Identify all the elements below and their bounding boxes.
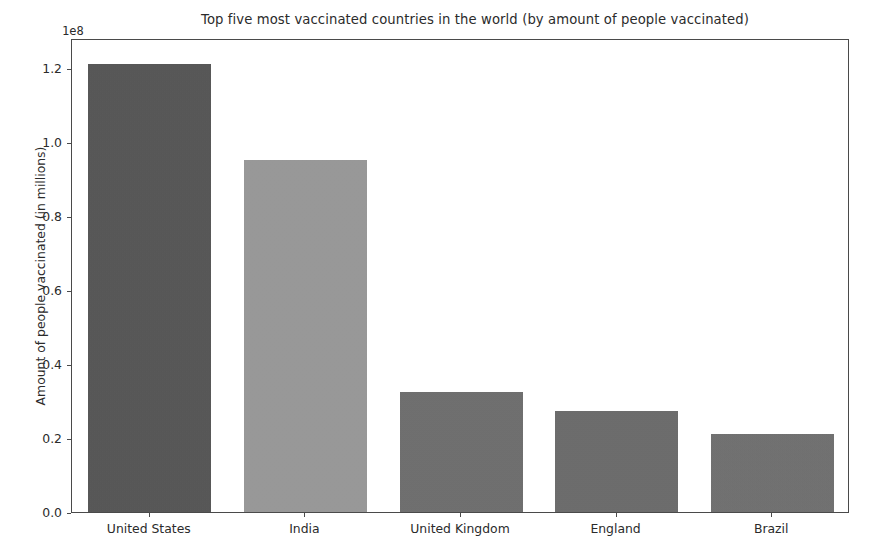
x-tick-label-united-states: United States	[107, 521, 191, 536]
x-tick-label-united-kingdom: United Kingdom	[410, 521, 509, 536]
x-tick-mark	[616, 513, 617, 517]
x-tick-mark	[771, 513, 772, 517]
x-tick-label-india: India	[289, 521, 319, 536]
x-tick-label-england: England	[590, 521, 640, 536]
x-tick-mark	[460, 513, 461, 517]
x-tick-mark	[149, 513, 150, 517]
x-axis-ticks: United StatesIndiaUnited KingdomEnglandB…	[0, 0, 875, 559]
x-tick-mark	[304, 513, 305, 517]
figure-canvas: Top five most vaccinated countries in th…	[0, 0, 875, 559]
x-tick-label-brazil: Brazil	[754, 521, 789, 536]
